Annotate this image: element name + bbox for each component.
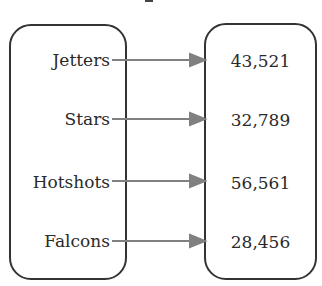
arrow-head-icon: [190, 113, 205, 125]
arrow-head-icon: [190, 54, 205, 66]
mapping-arrows: [0, 0, 322, 286]
arrow-head-icon: [190, 175, 205, 187]
arrow-head-icon: [190, 235, 205, 247]
